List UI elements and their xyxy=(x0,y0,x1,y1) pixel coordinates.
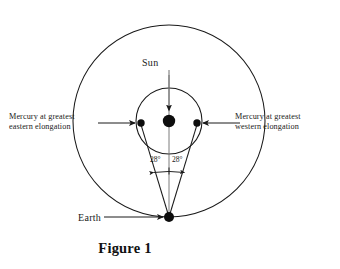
mercury-eastern-elongation-label: Mercury at greatest eastern elongation xyxy=(9,112,75,131)
tangent-line-eastern xyxy=(140,122,169,217)
angle-label-eastern: 28° xyxy=(150,156,161,165)
orbit-diagram xyxy=(0,0,340,269)
mercury-western-label-line2: western elongation xyxy=(235,122,301,132)
angle-label-western: 28° xyxy=(172,156,183,165)
mercury-western-elongation-label: Mercury at greatest western elongation xyxy=(235,112,301,131)
figure-container: Sun Earth Mercury at greatest eastern el… xyxy=(0,0,340,269)
earth-dot xyxy=(164,212,174,222)
sun-dot xyxy=(163,115,175,127)
mercury-eastern-label-line2: eastern elongation xyxy=(9,122,75,132)
sun-label: Sun xyxy=(142,57,158,69)
earth-label: Earth xyxy=(78,212,101,224)
mercury-western-label-line1: Mercury at greatest xyxy=(235,112,301,121)
mercury-eastern-dot xyxy=(137,119,144,126)
mercury-eastern-label-line1: Mercury at greatest xyxy=(9,112,75,121)
tangent-line-western xyxy=(169,122,198,217)
mercury-western-dot xyxy=(193,119,200,126)
figure-caption: Figure 1 xyxy=(0,240,250,257)
